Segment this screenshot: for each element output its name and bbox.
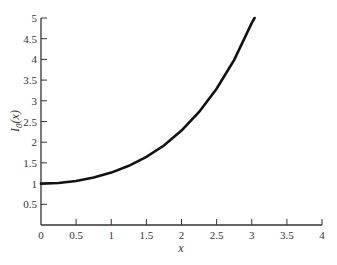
axes: [41, 18, 322, 225]
x-tick-label: 3.5: [280, 229, 294, 241]
y-tick-label: 2: [32, 136, 38, 148]
x-tick-label: 1.5: [140, 229, 154, 241]
series-line-i0: [41, 18, 255, 184]
y-tick-label: 3.5: [23, 74, 37, 86]
x-tick-label: 2.5: [210, 229, 224, 241]
y-tick-label: 1: [32, 178, 38, 190]
x-tick-label: 2: [179, 229, 185, 241]
x-tick-label: 1: [109, 229, 115, 241]
y-tick-label: 2.5: [23, 116, 37, 128]
x-tick-label: 0.5: [69, 229, 83, 241]
y-tick-label: 4: [32, 53, 38, 65]
x-tick-label: 4: [319, 229, 325, 241]
y-tick-label: 1.5: [23, 157, 37, 169]
x-tick-label: 0: [38, 229, 44, 241]
y-axis-ticks: 0.511.522.533.544.55: [23, 12, 47, 210]
y-tick-label: 5: [32, 12, 38, 24]
y-tick-label: 0.5: [23, 198, 37, 210]
y-axis-label: I0(x): [8, 110, 24, 133]
x-axis-label: x: [177, 241, 184, 255]
y-tick-label: 4.5: [23, 33, 37, 45]
bessel-chart: 00.511.522.533.54 0.511.522.533.544.55 x…: [0, 0, 337, 265]
x-axis-ticks: 00.511.522.533.54: [38, 219, 325, 241]
y-tick-label: 3: [32, 95, 38, 107]
x-tick-label: 3: [249, 229, 255, 241]
